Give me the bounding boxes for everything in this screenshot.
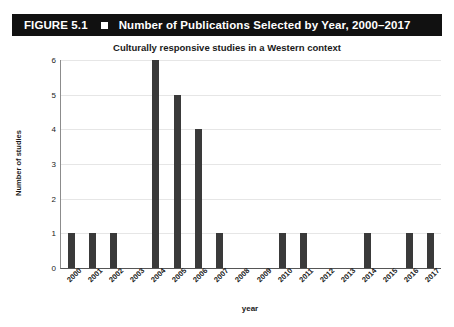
y-axis-tick-label: 6 — [38, 56, 56, 65]
bar[interactable] — [110, 233, 117, 268]
bar[interactable] — [68, 233, 75, 268]
bar-slot — [293, 60, 314, 268]
plot-frame — [60, 60, 441, 269]
y-axis-tick-label: 3 — [38, 160, 56, 169]
bar[interactable] — [195, 129, 202, 268]
y-axis-tick-label: 4 — [38, 125, 56, 134]
bar-slot — [251, 60, 272, 268]
bar[interactable] — [216, 233, 223, 268]
bar[interactable] — [300, 233, 307, 268]
bar-slot — [61, 60, 82, 268]
bar-series — [61, 60, 441, 268]
bar-slot — [272, 60, 293, 268]
bar-slot — [209, 60, 230, 268]
chart-title: Culturally responsive studies in a Weste… — [0, 42, 454, 53]
figure-banner: FIGURE 5.1 Number of Publications Select… — [12, 14, 442, 36]
bar-slot — [103, 60, 124, 268]
y-axis-tick-labels: 0123456 — [36, 60, 56, 268]
bar[interactable] — [406, 233, 413, 268]
bar[interactable] — [364, 233, 371, 268]
bar-slot — [335, 60, 356, 268]
y-axis-tick-label: 0 — [38, 264, 56, 273]
bar-slot — [124, 60, 145, 268]
square-bullet-icon — [101, 22, 108, 29]
bar-slot — [167, 60, 188, 268]
y-axis-tick-label: 5 — [38, 90, 56, 99]
y-axis-tick-label: 2 — [38, 194, 56, 203]
figure-container: FIGURE 5.1 Number of Publications Select… — [0, 0, 454, 327]
bar[interactable] — [174, 95, 181, 268]
bar-slot — [399, 60, 420, 268]
y-axis-title: Number of studies — [14, 108, 23, 218]
bar-slot — [145, 60, 166, 268]
bar[interactable] — [152, 60, 159, 268]
bar-slot — [357, 60, 378, 268]
bar[interactable] — [427, 233, 434, 268]
figure-number-label: FIGURE 5.1 — [24, 19, 88, 31]
chart-plot-area: Number of studies 0123456 20002001200220… — [18, 60, 442, 318]
bar-slot — [188, 60, 209, 268]
bar-slot — [378, 60, 399, 268]
bar[interactable] — [279, 233, 286, 268]
x-axis-title: year — [60, 304, 440, 313]
bar-slot — [314, 60, 335, 268]
bar-slot — [82, 60, 103, 268]
bar[interactable] — [89, 233, 96, 268]
y-axis-tick-label: 1 — [38, 229, 56, 238]
bar-slot — [420, 60, 441, 268]
bar-slot — [230, 60, 251, 268]
figure-title-label: Number of Publications Selected by Year,… — [119, 19, 411, 31]
